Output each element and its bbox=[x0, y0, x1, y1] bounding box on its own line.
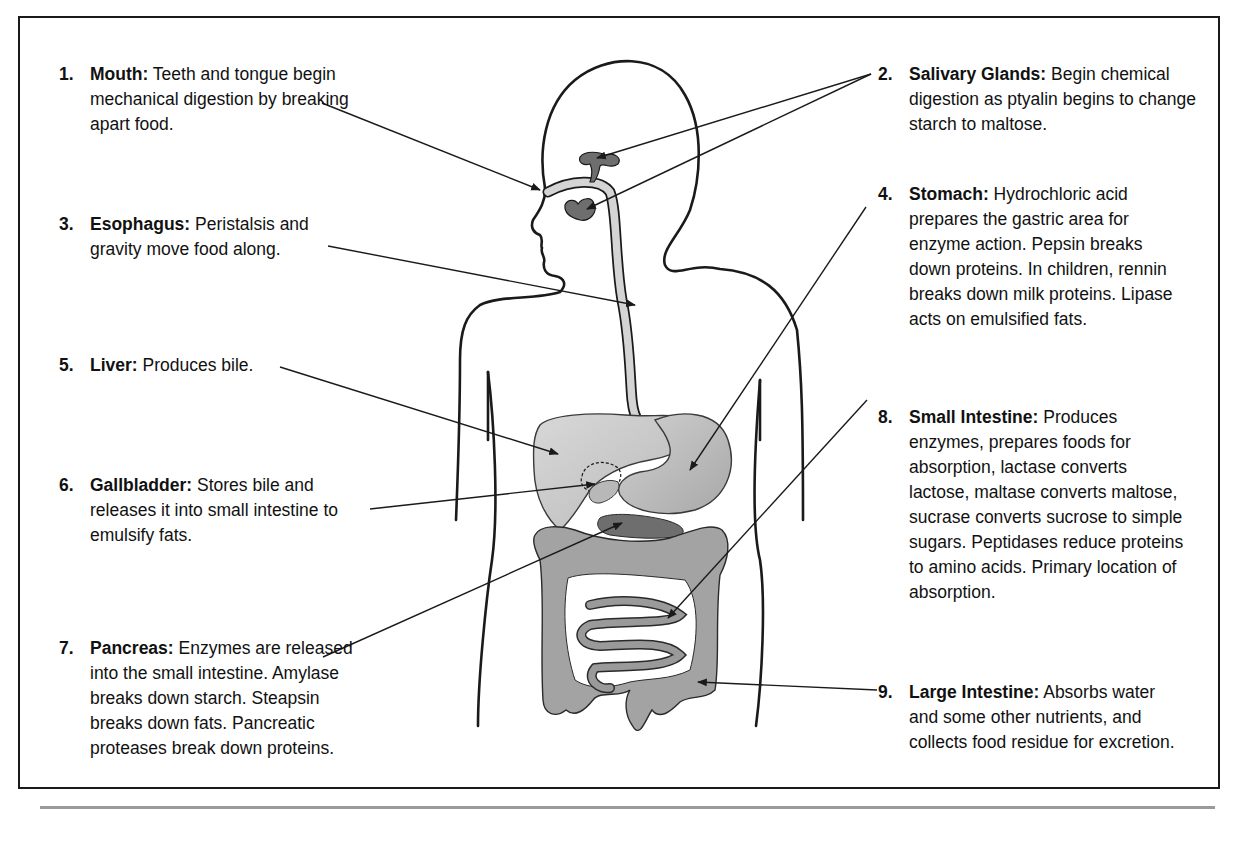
label-liver: 5. Liver: Produces bile. bbox=[90, 353, 390, 378]
label-stomach: 4. Stomach: Hydrochloric acid prepares t… bbox=[909, 182, 1184, 332]
leader-salivary-lower bbox=[587, 74, 871, 209]
leader-large-intestine bbox=[698, 682, 877, 690]
label-mouth: 1. Mouth: Teeth and tongue begin mechani… bbox=[90, 62, 390, 137]
esophagus bbox=[548, 182, 660, 430]
leader-salivary-upper bbox=[597, 74, 871, 158]
label-pancreas: 7. Pancreas: Enzymes are released into t… bbox=[90, 636, 375, 761]
label-esophagus: 3. Esophagus: Peristalsis and gravity mo… bbox=[90, 212, 340, 262]
label-large-intestine: 9. Large Intestine: Absorbs water and so… bbox=[909, 680, 1179, 755]
label-small-intestine: 8. Small Intestine: Produces enzymes, pr… bbox=[909, 405, 1189, 605]
pancreas bbox=[598, 514, 683, 538]
leader-esophagus bbox=[328, 246, 635, 305]
label-gallbladder: 6. Gallbladder: Stores bile and releases… bbox=[90, 473, 370, 548]
label-salivary-glands: 2. Salivary Glands: Begin chemical diges… bbox=[909, 62, 1209, 137]
leader-liver bbox=[280, 367, 558, 454]
